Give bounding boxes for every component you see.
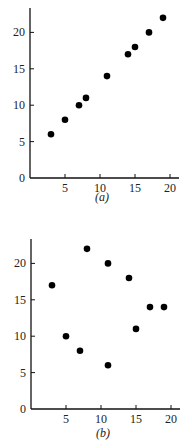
- scatter-plot-a: 510152005101520(a): [13, 8, 179, 204]
- x-tick-label: 20: [164, 181, 176, 195]
- x-tick-label: 5: [63, 412, 69, 426]
- x-tick-label: 15: [129, 181, 141, 195]
- y-tick-label: 20: [13, 25, 25, 39]
- x-tick-label: 20: [165, 412, 177, 426]
- y-tick-label: 5: [19, 135, 25, 149]
- scatter-plot-b: 510152005101520(b): [14, 239, 180, 440]
- data-point: [132, 44, 139, 51]
- x-tick-label: 10: [95, 412, 107, 426]
- data-point: [62, 116, 69, 123]
- data-point: [105, 260, 112, 267]
- data-point: [147, 304, 154, 311]
- y-tick-label: 20: [14, 256, 26, 270]
- scatter-plots-figure: 510152005101520(a) 510152005101520(b): [0, 0, 192, 448]
- data-point: [161, 304, 168, 311]
- data-point: [63, 333, 70, 340]
- data-point: [76, 102, 83, 109]
- data-point: [160, 15, 167, 22]
- data-point: [125, 51, 132, 58]
- y-tick-label: 0: [19, 171, 25, 185]
- data-point: [104, 73, 111, 80]
- data-point: [105, 362, 112, 369]
- data-point: [146, 29, 153, 36]
- chart-caption: (a): [95, 190, 109, 204]
- y-tick-label: 15: [13, 62, 25, 76]
- data-point: [77, 347, 84, 354]
- x-tick-label: 5: [62, 181, 68, 195]
- y-tick-label: 15: [14, 293, 26, 307]
- data-point: [83, 95, 90, 102]
- y-tick-label: 0: [20, 402, 26, 416]
- data-point: [84, 246, 91, 253]
- y-tick-label: 10: [14, 329, 26, 343]
- data-point: [48, 131, 55, 138]
- x-tick-label: 15: [130, 412, 142, 426]
- data-point: [49, 282, 56, 289]
- y-tick-label: 10: [13, 98, 25, 112]
- data-point: [133, 326, 140, 333]
- y-tick-label: 5: [20, 366, 26, 380]
- data-point: [126, 275, 133, 282]
- chart-caption: (b): [96, 426, 110, 440]
